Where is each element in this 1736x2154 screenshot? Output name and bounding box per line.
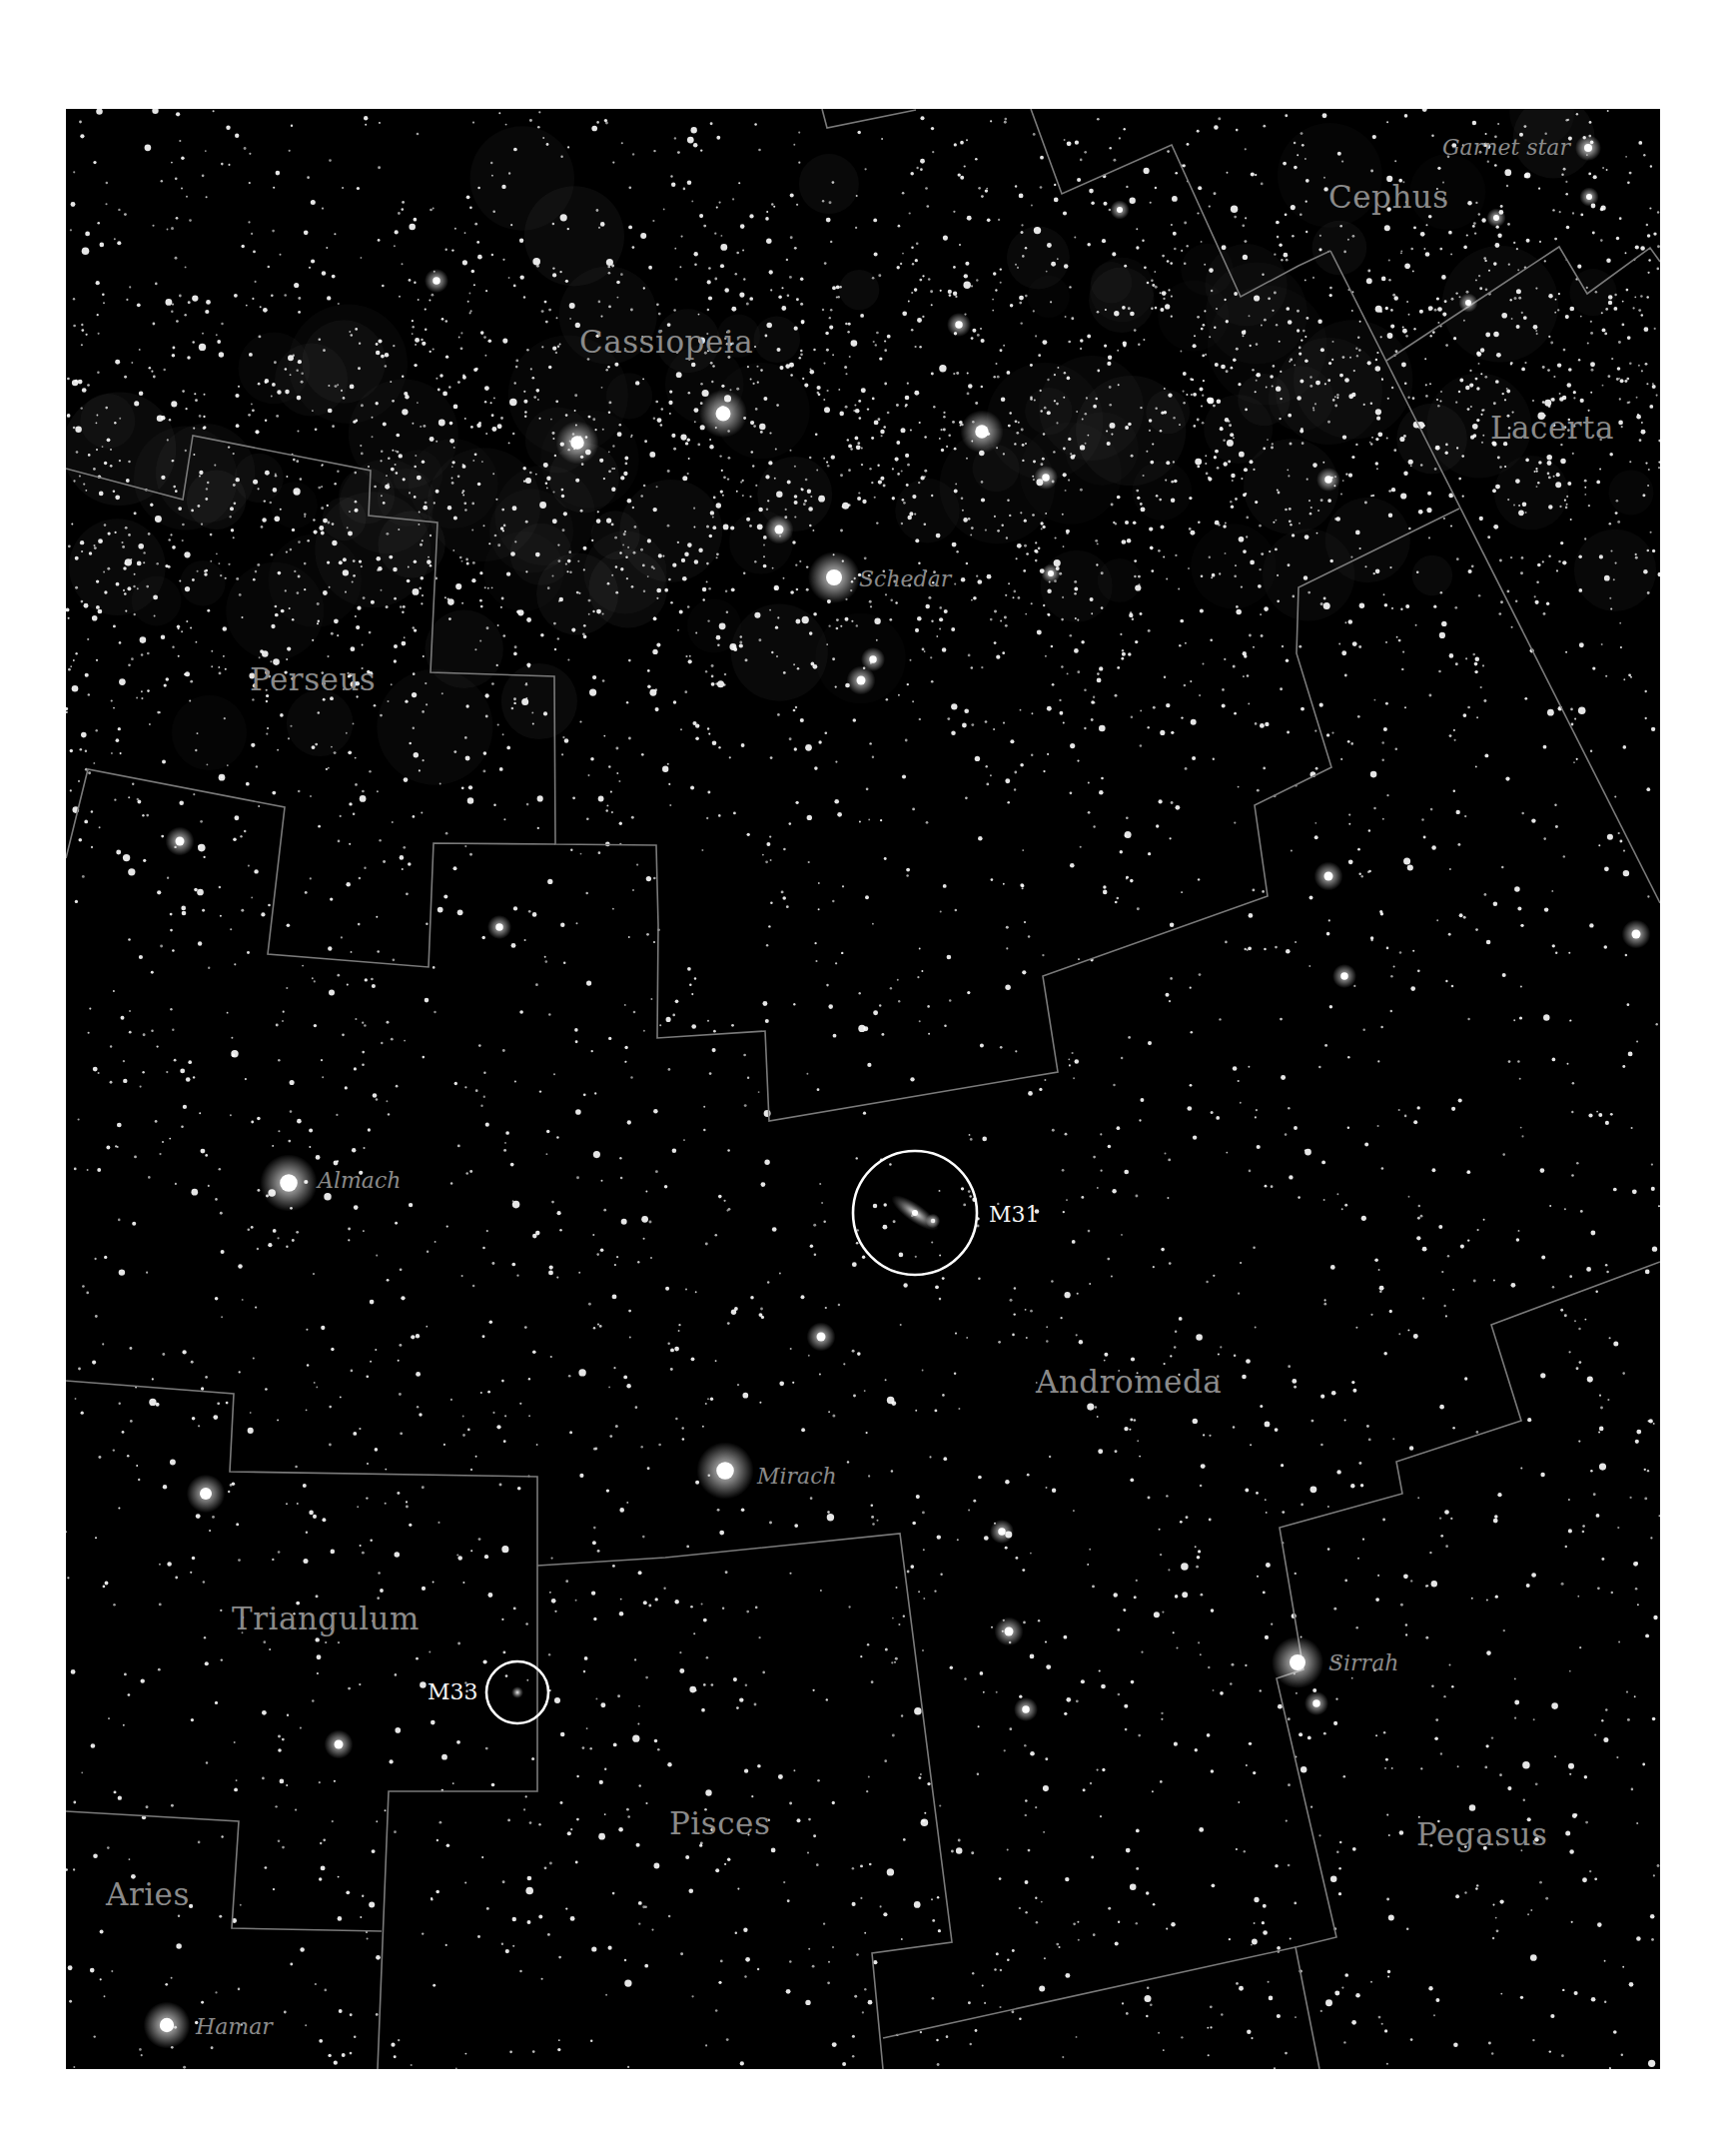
star-label-schedar: Schedar <box>859 568 951 590</box>
object-label-m31: M31 <box>989 1204 1040 1226</box>
star-label-mirach: Mirach <box>757 1466 837 1488</box>
constellation-label-lacerta: Lacerta <box>1490 413 1614 444</box>
constellation-label-perseus: Perseus <box>250 664 376 695</box>
constellation-label-cephus: Cephus <box>1328 182 1449 213</box>
object-label-m33: M33 <box>428 1681 478 1703</box>
constellation-label-aries: Aries <box>106 1879 190 1910</box>
star-map: Cephus Cassiopeia Lacerta Perseus Androm… <box>66 109 1660 2069</box>
constellation-label-cassiopeia: Cassiopeia <box>579 327 753 358</box>
constellation-label-pisces: Pisces <box>669 1808 770 1839</box>
constellation-label-andromeda: Andromeda <box>1036 1367 1222 1398</box>
star-label-almach: Almach <box>318 1170 401 1192</box>
star-label-garnet-star: Garnet star <box>1442 137 1570 159</box>
constellation-label-triangulum: Triangulum <box>232 1604 420 1634</box>
deep-sky-objects <box>486 1151 977 1723</box>
star-label-hamar: Hamar <box>196 2016 273 2038</box>
constellation-label-pegasus: Pegasus <box>1416 1819 1547 1850</box>
star-field <box>66 109 1660 2069</box>
star-label-sirrah: Sirrah <box>1328 1652 1398 1674</box>
